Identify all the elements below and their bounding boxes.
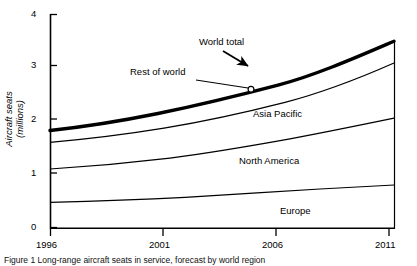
curve-north-america <box>50 118 394 169</box>
x-tick-label-2006: 2006 <box>262 240 283 250</box>
rest-of-world-marker <box>248 86 254 92</box>
world-total-arrow <box>223 51 248 66</box>
y-tick-label-2: 2 <box>31 114 36 124</box>
x-tick-label-2001: 2001 <box>149 240 170 250</box>
y-axis-title: Aircraft seats (millions) <box>3 71 25 167</box>
figure-caption: Figure 1 Long-range aircraft seats in se… <box>4 255 413 266</box>
y-tick-label-1: 1 <box>31 168 36 178</box>
series-label-europe: Europe <box>280 206 311 216</box>
y-tick-label-0: 0 <box>31 222 36 232</box>
x-tick-label-2011: 2011 <box>375 240 395 250</box>
figure-container: Aircraft seats (millions) 4 3 2 1 0 1996… <box>0 0 417 266</box>
curve-asia-pacific <box>50 63 394 142</box>
y-tick-label-4: 4 <box>31 9 36 19</box>
x-tick-label-1996: 1996 <box>36 240 57 250</box>
series-label-asia-pacific: Asia Pacific <box>253 109 302 119</box>
annotation-world-total: World total <box>199 37 244 47</box>
x-axis-ticks <box>51 228 390 236</box>
annotation-rest-of-world: Rest of world <box>130 67 185 77</box>
rest-of-world-leader <box>196 80 254 92</box>
y-tick-label-3: 3 <box>31 60 36 70</box>
series-label-north-america: North America <box>239 156 299 166</box>
curve-europe <box>50 185 394 202</box>
